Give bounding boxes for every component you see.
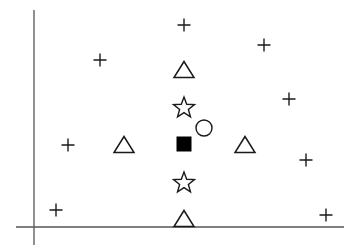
triangle-marker-icon	[114, 137, 134, 153]
star-marker-icon	[174, 172, 195, 192]
markers-group	[50, 19, 333, 227]
plus-marker-icon	[300, 154, 313, 167]
plus-marker-icon	[50, 204, 63, 217]
plus-marker-icon	[320, 209, 333, 222]
scatter-diagram	[0, 0, 360, 252]
plus-marker-icon	[258, 39, 271, 52]
plus-marker-icon	[62, 139, 75, 152]
diagram-svg	[0, 0, 360, 252]
plus-marker-icon	[94, 54, 107, 67]
triangle-marker-icon	[235, 137, 255, 153]
plus-marker-icon	[283, 93, 296, 106]
plus-marker-icon	[178, 19, 191, 32]
triangle-marker-icon	[174, 62, 194, 78]
star-marker-icon	[174, 97, 195, 117]
filled-square-marker-icon	[177, 137, 192, 152]
triangle-marker-icon	[174, 211, 194, 227]
circle-marker-icon	[196, 120, 212, 136]
